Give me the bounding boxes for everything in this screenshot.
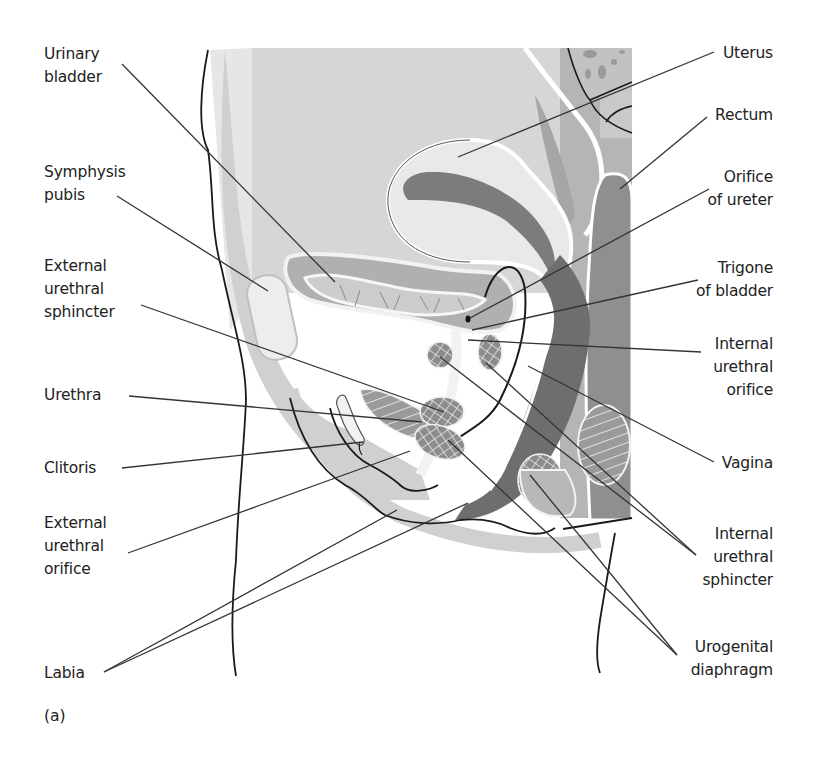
panel-letter: (a) bbox=[44, 707, 66, 725]
label-rectum: Rectum bbox=[715, 104, 773, 127]
leader-labia-2 bbox=[104, 503, 468, 672]
label-uterus: Uterus bbox=[723, 42, 773, 65]
label-internal-urethral-sphincter: Internal urethral sphincter bbox=[702, 523, 773, 592]
label-trigone-of-bladder: Trigone of bladder bbox=[696, 257, 773, 303]
label-labia: Labia bbox=[44, 662, 85, 685]
label-urethra: Urethra bbox=[44, 384, 101, 407]
label-external-urethral-orifice: External urethral orifice bbox=[44, 512, 107, 581]
label-orifice-of-ureter: Orifice of ureter bbox=[708, 166, 773, 212]
label-internal-urethral-orifice: Internal urethral orifice bbox=[713, 333, 773, 402]
label-external-urethral-sphincter: External urethral sphincter bbox=[44, 255, 115, 324]
internal-urethral-sphincter bbox=[427, 334, 502, 370]
label-symphysis-pubis: Symphysis pubis bbox=[44, 161, 126, 207]
label-urogenital-diaphragm: Urogenital diaphragm bbox=[691, 636, 773, 682]
ureter-orifice-dot bbox=[466, 316, 471, 323]
label-vagina: Vagina bbox=[722, 452, 773, 475]
leader-labia-1 bbox=[104, 510, 397, 672]
anatomy-figure: Urinary bladder Symphysis pubis External… bbox=[0, 0, 819, 774]
label-urinary-bladder: Urinary bladder bbox=[44, 43, 102, 89]
leader-rectum bbox=[620, 117, 707, 189]
label-clitoris: Clitoris bbox=[44, 457, 96, 480]
